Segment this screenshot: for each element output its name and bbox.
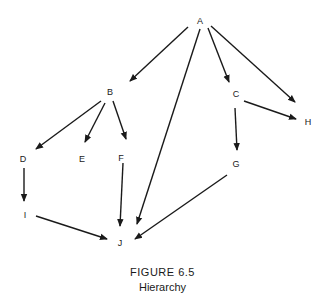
edge-c-to-g [235,108,237,150]
edge-b-to-d [36,101,101,149]
node-a: A [197,17,203,26]
edge-f-to-j [120,163,123,226]
edge-g-to-j [135,175,227,239]
node-j: J [118,239,123,248]
figure-subtitle: Hierarchy [0,281,325,293]
edge-a-to-h [211,26,295,102]
edge-b-to-e [85,103,105,142]
node-i: I [24,211,27,220]
edge-a-to-b [130,27,188,81]
node-d: D [20,155,27,164]
node-b: B [107,88,113,97]
figure-title: FIGURE 6.5 [0,266,325,278]
node-e: E [79,155,85,164]
edge-c-to-h [244,101,296,119]
edge-a-to-j [137,29,200,224]
node-f: F [118,154,124,163]
node-c: C [233,90,240,99]
edge-b-to-f [113,101,126,139]
hierarchy-diagram [0,0,325,305]
edges-group [24,26,296,239]
edge-a-to-c [208,28,229,82]
node-g: G [232,160,239,169]
edge-i-to-j [36,216,107,239]
node-h: H [305,118,312,127]
